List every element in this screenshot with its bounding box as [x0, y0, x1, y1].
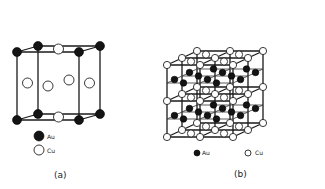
cu-atom: [220, 130, 227, 137]
cu-atom: [163, 61, 170, 68]
legend-a-cu-label: Cu: [47, 147, 55, 154]
legend-b-au-label: Au: [202, 149, 210, 156]
cu-atom: [244, 54, 251, 61]
cu-atom: [259, 119, 266, 126]
cu-atom: [54, 112, 64, 122]
au-atom: [213, 116, 220, 123]
au-atom: [180, 116, 187, 123]
cu-atom: [163, 133, 170, 140]
cu-atom: [211, 90, 218, 97]
au-atom: [186, 105, 193, 112]
au-atom: [252, 69, 259, 76]
cu-atom: [64, 75, 74, 85]
cu-atom: [163, 97, 170, 104]
au-atom: [195, 73, 202, 80]
panel-b-caption: (b): [234, 169, 247, 179]
au-atom: [180, 80, 187, 87]
au-atom: [210, 102, 217, 109]
au-atom: [204, 112, 211, 119]
cu-atom: [229, 133, 236, 140]
au-atom: [171, 76, 178, 83]
au-atom: [219, 69, 226, 76]
cu-atom: [196, 97, 203, 104]
cu-atom: [187, 58, 194, 65]
au-atom: [75, 48, 84, 57]
cu-atom: [244, 90, 251, 97]
au-atom: [228, 109, 235, 116]
cu-atom: [23, 78, 33, 88]
cu-atom: [235, 87, 242, 94]
cu-atom: [211, 54, 218, 61]
au-atom: [213, 80, 220, 87]
cu-atom: [54, 44, 64, 54]
cu-atom: [229, 61, 236, 68]
au-atom: [34, 42, 43, 51]
cu-atom: [187, 130, 194, 137]
panel-a-caption: (a): [54, 170, 67, 180]
au-atom: [243, 102, 250, 109]
cu-atom: [220, 94, 227, 101]
cu-atom: [235, 123, 242, 130]
au-atom: [75, 116, 84, 125]
legend-a-au-marker: [34, 131, 44, 141]
legend-a-au-label: Au: [47, 133, 55, 140]
cu-atom: [178, 54, 185, 61]
au-atom: [13, 116, 22, 125]
panel-b-superlattice: [163, 47, 266, 140]
legend-b-au-marker: [194, 150, 200, 156]
cu-atom: [202, 87, 209, 94]
au-atom: [171, 112, 178, 119]
au-atom: [186, 69, 193, 76]
au-atom: [204, 76, 211, 83]
cu-atom: [43, 81, 53, 91]
cu-atom: [259, 83, 266, 90]
cu-atom: [235, 51, 242, 58]
cu-atom: [202, 123, 209, 130]
cu-atom: [178, 126, 185, 133]
au-atom: [96, 110, 105, 119]
au-atom: [237, 112, 244, 119]
cu-atom: [196, 61, 203, 68]
au-atom: [237, 76, 244, 83]
cu-atom: [193, 47, 200, 54]
cu-atom: [226, 83, 233, 90]
cu-atom: [226, 119, 233, 126]
au-atom: [195, 109, 202, 116]
cu-atom: [85, 78, 95, 88]
au-atom: [34, 110, 43, 119]
cu-atom: [259, 47, 266, 54]
crystal-structure-figure: Au Cu (a) Au Cu (b): [0, 0, 325, 189]
panel-a-unit-cell: [13, 42, 105, 125]
au-atom: [219, 105, 226, 112]
cu-atom: [226, 47, 233, 54]
cu-atom: [229, 97, 236, 104]
cu-atom: [244, 126, 251, 133]
cu-atom: [187, 94, 194, 101]
au-atom: [13, 48, 22, 57]
cu-atom: [220, 58, 227, 65]
cu-atom: [202, 51, 209, 58]
cu-atom: [193, 119, 200, 126]
cu-atom: [211, 126, 218, 133]
au-atom: [210, 66, 217, 73]
legend-a-cu-marker: [34, 145, 44, 155]
legend-b-cu-marker: [245, 150, 251, 156]
cu-atom: [196, 133, 203, 140]
au-atom: [243, 66, 250, 73]
au-atom: [252, 105, 259, 112]
legend-b-cu-label: Cu: [255, 149, 263, 156]
au-atom: [96, 42, 105, 51]
cu-atom: [178, 90, 185, 97]
cu-atom: [193, 83, 200, 90]
au-atom: [228, 73, 235, 80]
